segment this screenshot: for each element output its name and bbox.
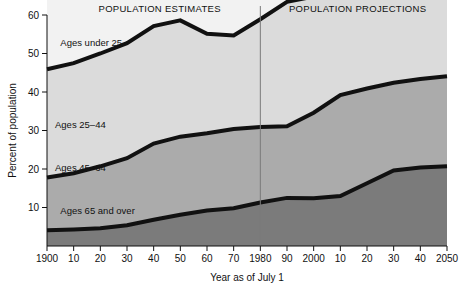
x-axis-title: Year as of July 1	[210, 272, 284, 283]
x-tick-label: 2050	[436, 253, 459, 264]
x-tick-label: 20	[95, 253, 107, 264]
x-tick-label: 60	[201, 253, 213, 264]
band-label-ages-under-25: Ages under 25	[60, 37, 122, 48]
population-estimates-header: POPULATION ESTIMATES	[99, 3, 221, 14]
y-tick-label: 30	[28, 125, 40, 136]
x-tick-label: 30	[388, 253, 400, 264]
y-tick-label: 50	[28, 48, 40, 59]
chart-canvas: 102030405060 190010203040506070198090200…	[0, 0, 464, 295]
x-tick-label: 40	[415, 253, 427, 264]
population-age-distribution-chart: 102030405060 190010203040506070198090200…	[0, 0, 464, 295]
y-tick-label: 10	[28, 202, 40, 213]
x-tick-label: 30	[121, 253, 133, 264]
population-projections-header: POPULATION PROJECTIONS	[289, 3, 426, 14]
x-tick-label: 50	[175, 253, 187, 264]
x-tick-label: 1900	[36, 253, 59, 264]
x-tick-label: 1980	[249, 253, 272, 264]
y-axis-title: Percent of population	[7, 83, 18, 178]
band-label-ages-25-44: Ages 25–44	[55, 119, 106, 130]
y-tick-label: 20	[28, 164, 40, 175]
y-tick-label: 40	[28, 87, 40, 98]
x-tick-label: 70	[228, 253, 240, 264]
x-tick-label: 90	[281, 253, 293, 264]
x-tick-label: 40	[148, 253, 160, 264]
x-tick-label: 10	[335, 253, 347, 264]
band-label-ages-45-64: Ages 45–64	[55, 162, 106, 173]
x-tick-label: 20	[361, 253, 373, 264]
band-label-ages-65-and-over: Ages 65 and over	[60, 205, 134, 216]
x-tick-label: 10	[68, 253, 80, 264]
x-tick-label: 2000	[303, 253, 326, 264]
y-tick-label: 60	[28, 10, 40, 21]
